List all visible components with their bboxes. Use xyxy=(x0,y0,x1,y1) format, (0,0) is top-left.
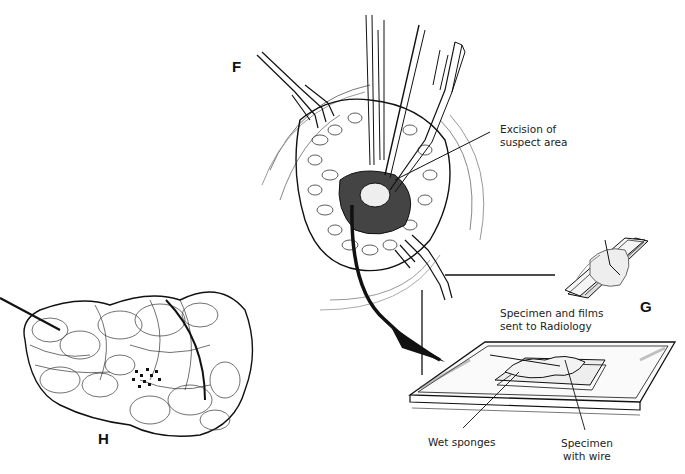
specimen-films-label: Specimen and films sent to Radiology xyxy=(500,307,603,333)
specimen-films-label-line1: Specimen and films xyxy=(500,307,603,320)
specimen-films-illustration xyxy=(565,238,648,298)
panel-letter-h: H xyxy=(98,430,109,447)
specimen-wire-label: Specimen with wire xyxy=(561,437,613,463)
excision-label: Excision of suspect area xyxy=(500,123,567,149)
illustration-canvas xyxy=(0,0,685,474)
specimen-wire-label-line1: Specimen xyxy=(561,437,613,450)
excision-label-line2: suspect area xyxy=(500,136,567,149)
specimen-wire-label-line2: with wire xyxy=(561,450,613,463)
excised-specimen-illustration xyxy=(0,292,253,436)
excision-label-line1: Excision of xyxy=(500,123,567,136)
surgical-field-illustration xyxy=(257,15,484,310)
panel-letter-f: F xyxy=(232,58,241,75)
panel-letter-g: G xyxy=(640,298,652,315)
wet-sponges-label: Wet sponges xyxy=(428,436,496,449)
tray-illustration xyxy=(410,342,675,415)
specimen-films-label-line2: sent to Radiology xyxy=(500,320,603,333)
